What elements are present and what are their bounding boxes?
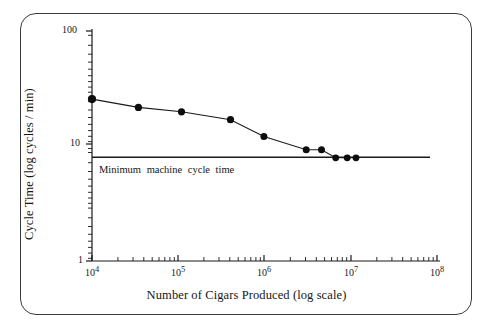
data-point: [135, 104, 142, 111]
plot-canvas: [0, 0, 493, 329]
x-tick-exponent: 8: [440, 265, 444, 274]
data-point-markers: [88, 95, 360, 161]
data-point: [318, 146, 325, 153]
x-axis-title: Number of Cigars Produced (log scale): [0, 288, 493, 303]
x-tick-base: 10: [257, 267, 267, 278]
x-tick-base: 10: [430, 267, 440, 278]
data-point: [353, 154, 360, 161]
x-tick-exponent: 6: [267, 265, 271, 274]
data-point: [303, 146, 310, 153]
x-tick-label-1e7: 107: [344, 265, 358, 278]
x-tick-base: 10: [85, 267, 95, 278]
y-tick-label-10: 10: [70, 137, 80, 148]
y-tick-label-1: 1: [78, 254, 83, 265]
x-tick-exponent: 7: [354, 265, 358, 274]
data-point: [227, 116, 234, 123]
x-tick-base: 10: [171, 267, 181, 278]
x-tick-exponent: 5: [181, 265, 185, 274]
x-tick-label-1e6: 106: [257, 265, 271, 278]
y-axis-title: Cycle Time (log cycles / min): [22, 40, 37, 240]
data-point: [178, 108, 185, 115]
x-tick-label-1e8: 108: [430, 265, 444, 278]
x-tick-base: 10: [344, 267, 354, 278]
chart-page: 100 10 1 104 105 106 107 108 Minimum mac…: [0, 0, 493, 329]
data-series-line: [92, 99, 356, 158]
minimum-cycle-time-label: Minimum machine cycle time: [99, 164, 234, 175]
data-point: [88, 95, 96, 103]
x-tick-exponent: 4: [95, 265, 99, 274]
x-tick-label-1e4: 104: [85, 265, 99, 278]
data-point: [260, 133, 267, 140]
data-point: [332, 154, 339, 161]
y-tick-label-100: 100: [62, 24, 77, 35]
x-tick-label-1e5: 105: [171, 265, 185, 278]
data-point: [344, 154, 351, 161]
